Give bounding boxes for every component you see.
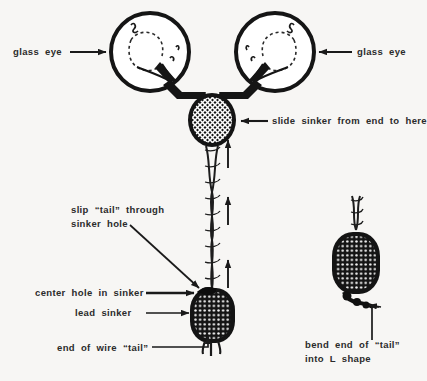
label-glass-eye-left: glass eye [13, 45, 62, 59]
label-lead-sinker: lead sinker [75, 306, 131, 320]
glass-eye-right [236, 13, 314, 91]
lead-sinker-lower [190, 287, 235, 356]
label-slip-tail-line2: sinker hole [71, 217, 128, 231]
twisted-wire-tail [205, 140, 228, 288]
glass-eye-left [111, 13, 189, 91]
wire-l-bend [343, 292, 374, 309]
label-slide-sinker: slide sinker from end to here [272, 114, 427, 128]
label-glass-eye-right: glass eye [357, 45, 406, 59]
lead-sinker-side [332, 196, 380, 309]
label-bend-end-line2: into L shape [305, 352, 371, 366]
slide-sinker-top [188, 93, 236, 147]
label-end-of-wire: end of wire “tail” [57, 341, 148, 355]
label-bend-end-line1: bend end of “tail” [305, 338, 400, 352]
label-center-hole: center hole in sinker [35, 286, 144, 300]
label-slip-tail-line1: slip “tail” through [71, 203, 164, 217]
